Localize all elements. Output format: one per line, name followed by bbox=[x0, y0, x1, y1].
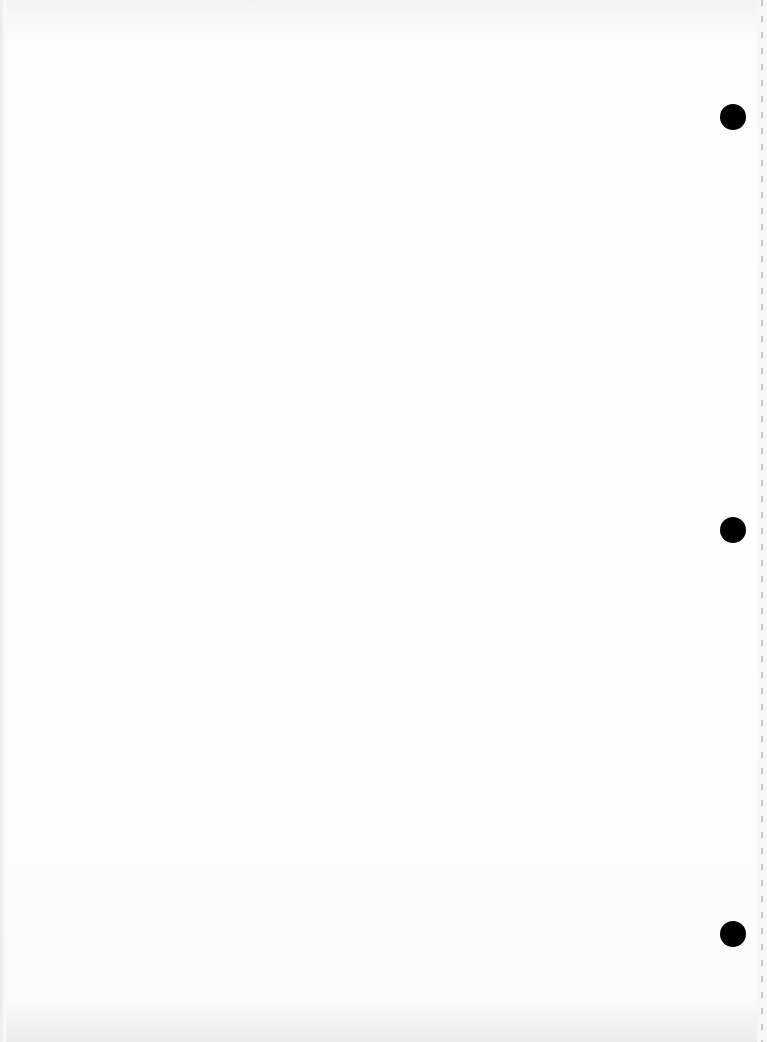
punch-hole-top bbox=[720, 104, 746, 130]
punch-hole-middle bbox=[720, 517, 746, 543]
punch-hole-bottom bbox=[720, 921, 746, 947]
scanned-page bbox=[0, 0, 767, 1042]
page-left-edge-shadow bbox=[0, 0, 6, 1042]
perforation-line bbox=[761, 0, 763, 1042]
